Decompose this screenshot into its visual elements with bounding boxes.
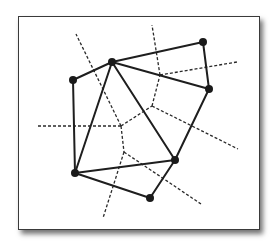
voronoi-edge xyxy=(76,34,121,126)
site-point xyxy=(205,85,213,93)
site-point xyxy=(199,38,207,46)
delaunay-edge xyxy=(75,160,175,173)
delaunay-edge xyxy=(203,42,209,89)
delaunay-edge xyxy=(75,62,112,173)
voronoi-edges xyxy=(37,25,238,218)
voronoi-edge xyxy=(121,126,124,152)
delaunay-edge xyxy=(150,160,175,198)
voronoi-delaunay-diagram xyxy=(0,0,276,244)
site-point xyxy=(146,194,154,202)
voronoi-edge xyxy=(152,25,160,75)
delaunay-edge xyxy=(75,173,150,198)
delaunay-edge xyxy=(73,80,75,173)
voronoi-edge xyxy=(152,75,160,106)
site-point xyxy=(171,156,179,164)
delaunay-edge xyxy=(175,89,209,160)
site-point xyxy=(108,58,116,66)
site-point xyxy=(71,169,79,177)
delaunay-edges xyxy=(73,42,209,198)
voronoi-edge xyxy=(160,62,237,75)
site-point xyxy=(69,76,77,84)
